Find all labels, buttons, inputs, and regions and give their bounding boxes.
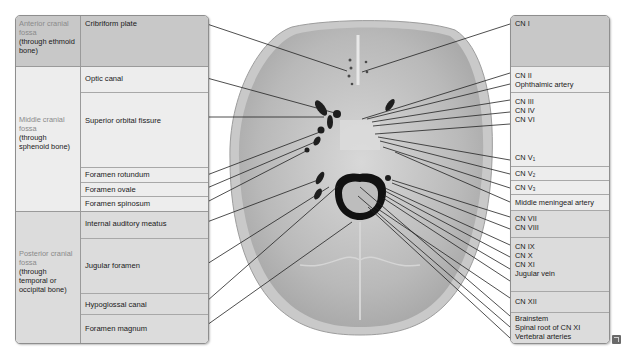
region-label-middle: Middle cranial fossa (through sphenoid b… [16,67,81,211]
row-hypoglossal-canal: Hypoglossal canal [81,294,208,315]
row-middle-meningeal-artery: Middle meningeal artery [511,195,609,211]
row-optic-canal: Optic canal [81,67,208,93]
row-internal-auditory-meatus: Internal auditory meatus [81,212,208,239]
section-posterior-fossa: Posterior cranial fossa (through tempora… [16,212,208,343]
row-cn-iii-iv-vi-v1: CN III CN IV CN VI CN V1 [511,93,609,167]
row-superior-orbital-fissure: Superior orbital fissure [81,93,208,168]
row-foramen-magnum: Foramen magnum [81,315,208,343]
region-label-anterior: Anterior cranial fossa (through ethmoid … [16,16,81,66]
row-cn-ix-x-xi-jugular: CN IX CN X CN XI Jugular vein [511,238,609,292]
row-cribriform-plate: Cribriform plate [81,16,208,67]
cn-v1-label: CN V1 [515,153,535,163]
row-foramen-ovale: Foramen ovale [81,183,208,197]
region-label-posterior: Posterior cranial fossa (through tempora… [16,212,81,343]
row-cn-ii-ophthalmic: CN II Ophthalmic artery [511,67,609,93]
structures-table: CN I CN II Ophthalmic artery CN III CN I… [510,15,610,344]
row-cn-xii: CN XII [511,292,609,313]
row-brainstem-group: Brainstem Spinal root of CN XI Vertebral… [511,313,609,343]
row-cn-v3: CN V3 [511,181,609,195]
expand-icon[interactable] [612,335,621,344]
row-cn-i: CN I [511,16,609,67]
row-foramen-spinosum: Foramen spinosum [81,197,208,212]
row-jugular-foramen: Jugular foramen [81,239,208,294]
foramina-table: Anterior cranial fossa (through ethmoid … [15,15,209,344]
row-cn-vii-viii: CN VII CN VIII [511,211,609,238]
section-middle-fossa: Middle cranial fossa (through sphenoid b… [16,67,208,212]
section-anterior-fossa: Anterior cranial fossa (through ethmoid … [16,16,208,67]
row-cn-v2: CN V2 [511,167,609,181]
row-foramen-rotundum: Foramen rotundum [81,168,208,183]
